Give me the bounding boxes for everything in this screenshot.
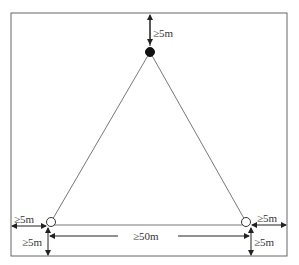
baseline-distance-label: ≥50m — [133, 230, 159, 242]
left-clearance-dimension: ≥5m — [12, 213, 46, 226]
right-bottom-clearance-dimension: ≥5m — [251, 228, 275, 255]
layout-diagram: ≥5m ≥5m ≥5m ≥50m ≥5m ≥5m — [0, 0, 299, 265]
top-clearance-label: ≥5m — [153, 27, 174, 39]
left-bottom-clearance-label: ≥5m — [22, 236, 43, 248]
bottom-right-node — [242, 218, 251, 227]
triangle-edges — [51, 52, 246, 225]
right-clearance-dimension: ≥5m — [252, 212, 286, 225]
right-bottom-clearance-label: ≥5m — [254, 236, 275, 248]
left-bottom-clearance-dimension: ≥5m — [22, 228, 48, 255]
left-clearance-label: ≥5m — [14, 213, 35, 225]
bottom-left-node — [47, 218, 56, 227]
baseline-distance-dimension: ≥50m — [50, 230, 249, 242]
right-clearance-label: ≥5m — [257, 212, 278, 224]
top-clearance-dimension: ≥5m — [150, 15, 174, 46]
top-node — [146, 48, 155, 57]
